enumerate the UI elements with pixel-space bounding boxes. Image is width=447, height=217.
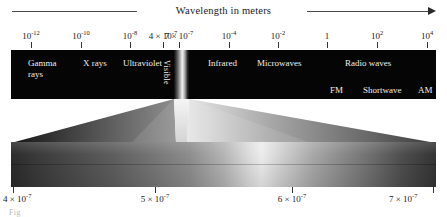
bottom-tick-label: 6 × 10-7 [278,194,307,204]
axis-title: Wavelength in meters [0,3,447,19]
top-tick-label: 10-10 [72,31,90,41]
top-tick [377,42,378,48]
top-tick-label: 7 × 10-7 [165,31,194,41]
top-tick [427,42,428,48]
top-tick [130,42,131,48]
top-tick-label: 1 [325,31,330,41]
magnifier-funnel [11,99,436,143]
radio-subband-fm: FM [330,85,343,95]
top-tick-label: 10-4 [222,31,236,41]
band-label-infrared: Infrared [208,58,237,68]
top-tick [278,42,279,48]
em-spectrum-figure: Wavelength in meters 10-1210-1010-84 × 1… [0,0,447,217]
top-tick [229,42,230,48]
band-label-microwaves: Microwaves [257,58,302,68]
bottom-tick-label: 4 × 10-7 [3,194,32,204]
top-tick [327,42,328,48]
top-tick-label: 10-8 [123,31,137,41]
top-wavelength-scale: 10-1210-1010-84 × 10-77 × 10-710-410-211… [0,24,447,48]
visible-band-label: Visible [162,60,171,85]
band-label-gamma-rays: Gammarays [28,58,57,79]
visible-spectrum-band [11,142,436,187]
top-tick-label: 10-2 [271,31,285,41]
top-tick [179,42,180,48]
radio-subband-shortwave: Shortwave [363,85,402,95]
bottom-tick [292,187,293,193]
bottom-tick [155,187,156,193]
top-tick-label: 102 [371,31,383,41]
figure-caption: Fig [9,208,21,217]
band-label-ultraviolet: Ultraviolet [123,58,162,68]
top-tick [31,42,32,48]
band-label-x-rays: X rays [83,58,107,68]
bottom-tick-label: 7 × 10-7 [389,194,418,204]
visible-slit [174,50,189,99]
bottom-wavelength-scale: 4 × 10-75 × 10-76 × 10-77 × 10-7 [0,187,447,209]
top-tick [81,42,82,48]
visible-spectrum-midline [11,164,436,165]
bottom-tick-label: 5 × 10-7 [141,194,170,204]
bottom-tick [13,187,14,193]
band-label-radio-waves: Radio waves [345,58,391,68]
radio-subband-am: AM [418,85,433,95]
top-tick [163,42,164,48]
top-tick-label: 10-12 [22,31,40,41]
top-tick-label: 104 [421,31,433,41]
wavelength-arrow-row: Wavelength in meters [0,3,447,19]
em-band: GammaraysX raysUltravioletInfraredMicrow… [11,50,436,99]
bottom-tick [433,187,434,193]
